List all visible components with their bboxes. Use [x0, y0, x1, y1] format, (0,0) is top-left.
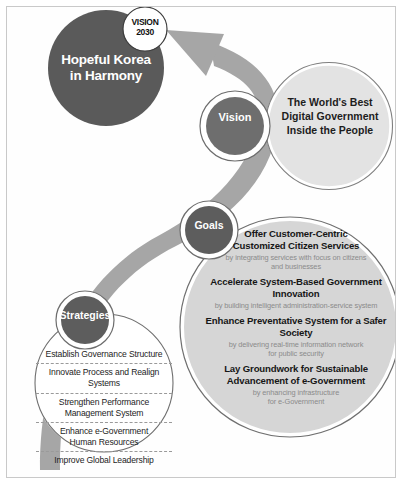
goal-title-line1: Enhance Preventative System for a Safer … [196, 315, 396, 339]
strategy-item: Improve Global Leadership [36, 451, 172, 469]
goal-title-line1: Accelerate System-Based Government [196, 276, 396, 288]
goal-title-line2: Innovation [196, 288, 396, 300]
strategy-line2: Human Resources [36, 437, 172, 448]
goal-title-line2: Customized Citizen Services [196, 240, 396, 252]
goals-list: Offer Customer-Centric Customized Citize… [196, 228, 396, 411]
goal-title: Enhance Preventative System for a Safer … [196, 315, 396, 339]
goal-item: Offer Customer-Centric Customized Citize… [196, 228, 396, 271]
vision-pill-label: Vision [204, 111, 266, 124]
strategies-pill-label: Strategies [48, 309, 122, 321]
goal-subtitle: by building intelligent administration-s… [196, 301, 396, 310]
goal-item: Enhance Preventative System for a Safer … [196, 315, 396, 358]
goal-subtitle: by enhancing infrastructure for e-Govern… [196, 388, 396, 406]
strategy-line1: Strengthen Performance [36, 397, 172, 408]
strategy-line1: Innovate Process and Realign Systems [36, 367, 172, 389]
vision-statement-line1: The World's Best [272, 96, 388, 110]
vision-statement-line2: Digital Government [272, 110, 388, 124]
goal-subtitle: by delivering real-time information netw… [196, 340, 396, 358]
goal-title-line1: Offer Customer-Centric [196, 228, 396, 240]
hopeful-korea-label: Hopeful Korea in Harmony [46, 52, 166, 84]
goal-title-line2: Advancement of e-Government [196, 375, 396, 387]
goal-title-line1: Lay Groundwork for Sustainable [196, 363, 396, 375]
goal-title: Offer Customer-Centric Customized Citize… [196, 228, 396, 252]
strategy-item: Enhance e-Government Human Resources [36, 422, 172, 451]
goal-subtitle-line1: by integrating services with focus on ci… [196, 253, 396, 262]
vision-statement: The World's Best Digital Government Insi… [272, 96, 388, 138]
goal-subtitle-line2: for e-Government [196, 397, 396, 406]
goal-title: Lay Groundwork for Sustainable Advanceme… [196, 363, 396, 387]
vision-2030-badge-line2: 2030 [119, 28, 171, 38]
goal-subtitle: by integrating services with focus on ci… [196, 253, 396, 271]
vision-statement-line3: Inside the People [272, 124, 388, 138]
strategies-list: Establish Governance Structure Innovate … [36, 346, 172, 469]
strategy-item: Innovate Process and Realign Systems [36, 363, 172, 392]
hopeful-korea-label-line2: in Harmony [46, 68, 166, 84]
strategy-line2: Management System [36, 408, 172, 419]
goal-title: Accelerate System-Based Government Innov… [196, 276, 396, 300]
strategy-item: Establish Governance Structure [36, 346, 172, 363]
goal-subtitle-line1: by building intelligent administration-s… [196, 301, 396, 310]
strategy-line1: Establish Governance Structure [36, 349, 172, 360]
goal-subtitle-line2: for public security [196, 349, 396, 358]
diagram-page: Hopeful Korea in Harmony VISION 2030 Vis… [0, 0, 404, 496]
goal-subtitle-line1: by delivering real-time information netw… [196, 340, 396, 349]
vision-pill-circle [206, 97, 264, 155]
goal-item: Accelerate System-Based Government Innov… [196, 276, 396, 310]
strategy-line1: Improve Global Leadership [36, 455, 172, 466]
goal-subtitle-line1: by enhancing infrastructure [196, 388, 396, 397]
vision-2030-badge-label: VISION 2030 [119, 18, 171, 37]
diagram-stage: Hopeful Korea in Harmony VISION 2030 Vis… [0, 0, 404, 496]
strategy-item: Strengthen Performance Management System [36, 393, 172, 422]
hopeful-korea-label-line1: Hopeful Korea [46, 52, 166, 68]
goal-item: Lay Groundwork for Sustainable Advanceme… [196, 363, 396, 406]
goal-subtitle-line2: and businesses [196, 262, 396, 271]
strategy-line1: Enhance e-Government [36, 426, 172, 437]
